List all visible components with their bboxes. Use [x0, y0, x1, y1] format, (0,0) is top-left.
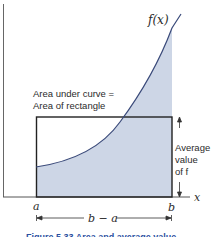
function-label: f(x)	[147, 13, 169, 27]
width-label: b − a	[88, 212, 118, 225]
annotation-line-2: Area of rectangle	[33, 100, 105, 111]
left-bound-label: a	[33, 200, 40, 213]
annotation-line-1: Area under curve =	[33, 88, 115, 99]
x-axis-label: x	[194, 191, 201, 204]
average-label-line-3: of f	[175, 166, 189, 177]
average-label-line-1: Average	[175, 142, 210, 153]
average-label-line-2: value	[175, 154, 198, 165]
right-bound-label: b	[168, 201, 175, 214]
average-value-diagram: f(x) x a b b − a Area under curve = Area…	[0, 0, 214, 237]
area-under-curve	[36, 28, 172, 197]
figure-caption: Figure 5.33 Area and average value	[26, 232, 176, 237]
